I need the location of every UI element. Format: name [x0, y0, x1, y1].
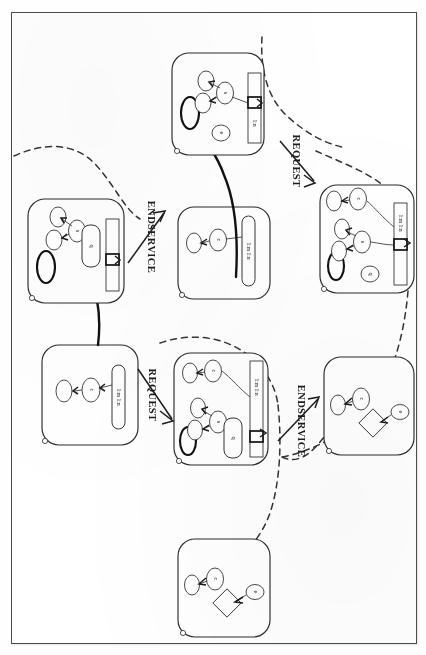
state-s3-node-b	[195, 93, 211, 113]
state-s5-node-a	[183, 363, 198, 383]
state-s0-anchor-dot	[42, 438, 47, 443]
transition-endservice-1[interactable]: ENDSERVICE	[128, 201, 165, 273]
transition-endservice-2-label: ENDSERVICE	[296, 385, 307, 457]
figure-page: c 1:m 1:n s	[0, 0, 426, 655]
state-s4-queue-token	[394, 239, 407, 250]
transition-request-1[interactable]: REQUEST	[138, 369, 173, 424]
state-s3-anchor-dot	[174, 148, 179, 153]
state-s5-anchor-dot	[176, 458, 181, 463]
transition-endservice-2[interactable]: ENDSERVICE	[278, 385, 319, 457]
state-s1-node-a	[50, 207, 66, 227]
state-s3-queue-token	[248, 97, 261, 108]
state-box-s5[interactable]: c s q 1:m 1:n	[174, 353, 268, 465]
state-s3-bar-label: 1:n	[252, 119, 258, 126]
state-box-s0[interactable]: c 1:m 1:n	[42, 345, 138, 445]
state-s4-anchor-dot	[321, 286, 326, 291]
state-s2-node-left	[187, 233, 202, 253]
state-s4-node-d	[332, 241, 347, 261]
state-s7-node-left	[331, 395, 346, 415]
state-s1-token	[37, 251, 55, 283]
state-s1-node-b	[46, 230, 62, 250]
state-s6-label-e: e	[253, 591, 260, 594]
state-s6-label-c: c	[213, 578, 220, 581]
transition-endservice-1-shaft	[128, 213, 164, 263]
state-s4-node-a	[327, 191, 342, 211]
state-box-s4[interactable]: c s q 1:m 1:n	[320, 185, 414, 293]
state-s3-label-e: e	[219, 132, 226, 135]
transition-request-2[interactable]: REQUEST	[280, 135, 315, 188]
state-s7-anchor-dot	[326, 448, 331, 453]
state-s5-node-d	[188, 420, 203, 440]
state-s0-label-c: c	[89, 389, 96, 392]
state-s5-label-c: c	[211, 370, 218, 373]
state-box-s3[interactable]: s e 1:n	[172, 53, 264, 155]
transition-request-1-label: REQUEST	[147, 369, 158, 422]
state-box-s7[interactable]: c e	[324, 357, 414, 455]
state-s4-bar-label: 1:m 1:n	[398, 214, 404, 231]
state-s0-bar-label: 1:m 1:n	[116, 388, 122, 405]
state-box-s1[interactable]: s q	[28, 199, 124, 303]
transition-request-2-label: REQUEST	[291, 135, 302, 188]
state-s6-anchor-dot	[180, 630, 185, 635]
state-s2-anchor-dot	[179, 292, 184, 297]
state-box-s2[interactable]: c 1:m 1:n	[178, 207, 270, 299]
dashed-curve-top-right	[262, 37, 342, 147]
state-s0-node-left	[56, 380, 72, 402]
state-s7-label-c: c	[359, 398, 366, 401]
figure-frame: c 1:m 1:n s	[11, 12, 417, 644]
state-s6-node-left	[185, 575, 200, 595]
state-s4-label-c: c	[356, 198, 363, 201]
state-s1-queue-token	[106, 254, 119, 265]
state-s1-anchor-dot	[29, 295, 34, 300]
state-s5-bar-label: 1:m 1:n	[254, 378, 260, 395]
diagram-canvas: c 1:m 1:n s	[12, 13, 416, 643]
transition-endservice-1-label: ENDSERVICE	[146, 201, 157, 273]
state-s2-bar-label: 1:m 1:n	[246, 242, 252, 259]
state-s2-label-c: c	[216, 239, 223, 242]
state-box-s6[interactable]: c e	[178, 539, 270, 637]
state-s7-label-e: e	[398, 411, 405, 414]
